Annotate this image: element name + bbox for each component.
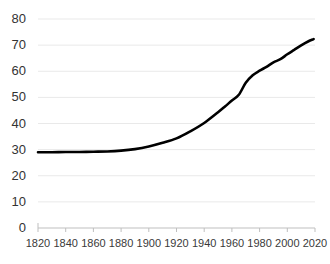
- y-tick-label: 60: [0, 64, 26, 77]
- plot-area: [0, 0, 330, 264]
- y-tick-label: 80: [0, 12, 26, 25]
- y-tick-label: 70: [0, 38, 26, 51]
- line-chart: 01020304050607080 1820184018601880190019…: [0, 0, 330, 264]
- gridlines: [38, 19, 315, 202]
- y-tick-label: 40: [0, 117, 26, 130]
- y-tick-label: 30: [0, 143, 26, 156]
- x-tick-label: 2020: [295, 238, 330, 249]
- axis-lines: [38, 223, 315, 228]
- y-tick-label: 0: [0, 221, 26, 234]
- y-tick-label: 50: [0, 90, 26, 103]
- x-tick-marks: [38, 228, 315, 232]
- y-tick-label: 20: [0, 169, 26, 182]
- series-line-1: [38, 39, 314, 152]
- y-tick-label: 10: [0, 195, 26, 208]
- data-series: [38, 39, 314, 152]
